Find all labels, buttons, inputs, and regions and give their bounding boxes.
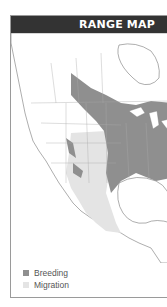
migration-swatch-icon	[23, 282, 29, 288]
north-america-range-map	[11, 33, 167, 263]
legend-item-migration: Migration	[23, 279, 69, 291]
legend-item-breeding: Breeding	[23, 267, 69, 279]
legend-label: Breeding	[34, 268, 68, 278]
breeding-swatch-icon	[23, 270, 29, 276]
range-map-panel: RANGE MAP Breeding Migration	[10, 15, 167, 298]
map-legend: Breeding Migration	[23, 267, 69, 291]
range-map-title: RANGE MAP	[11, 16, 167, 33]
legend-label: Migration	[34, 280, 69, 290]
